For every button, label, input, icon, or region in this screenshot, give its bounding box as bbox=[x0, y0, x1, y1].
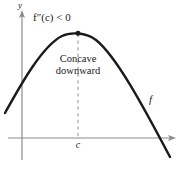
function-name-label: f bbox=[149, 94, 152, 105]
y-axis-label: y bbox=[18, 1, 22, 10]
second-derivative-condition-label: f″(c) < 0 bbox=[33, 12, 71, 23]
c-tick-label: c bbox=[0, 140, 156, 150]
critical-point-marker bbox=[76, 31, 81, 36]
downward-label: downward bbox=[0, 66, 156, 77]
concave-label: Concave bbox=[0, 54, 156, 65]
concavity-figure: y f″(c) < 0 Concave downward c f bbox=[0, 0, 179, 169]
